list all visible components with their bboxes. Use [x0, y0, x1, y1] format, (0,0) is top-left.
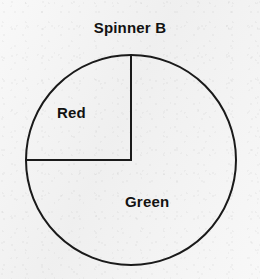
spinner-diagram — [0, 0, 260, 279]
sector-label-red: Red — [57, 105, 86, 121]
sector-label-green: Green — [125, 194, 169, 210]
spinner-svg — [0, 0, 260, 279]
spinner-figure-page: Spinner B Red Green — [0, 0, 260, 279]
